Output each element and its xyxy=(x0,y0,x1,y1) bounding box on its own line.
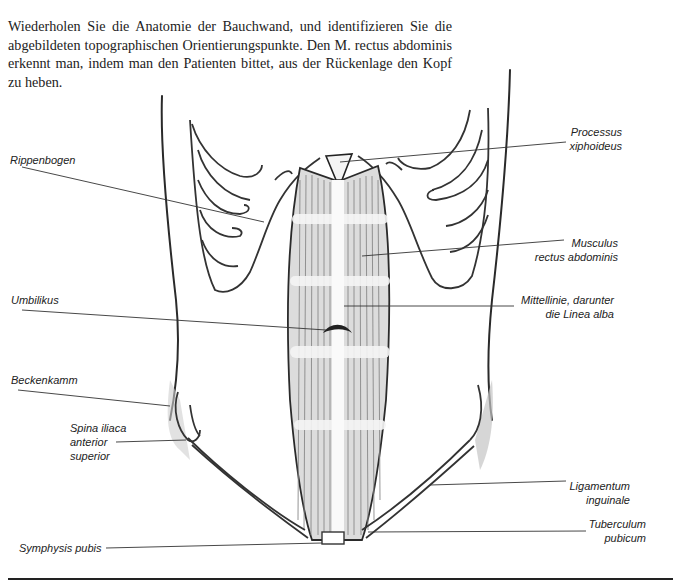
label-mittellinie-line2: die Linea alba xyxy=(510,307,614,321)
label-spina-line2: anterior xyxy=(70,435,107,449)
label-ligamentum-line1: Ligamentum xyxy=(560,479,630,493)
leader-ligamentum xyxy=(430,481,566,485)
torso-left-outline xyxy=(162,96,178,420)
label-symphysis-pubis: Symphysis pubis xyxy=(19,541,102,555)
label-musculus-line1: Musculus xyxy=(520,236,618,250)
label-spina-line3: superior xyxy=(70,449,110,463)
bottom-rule xyxy=(8,578,673,580)
label-processus-line2: xiphoideus xyxy=(560,139,622,153)
label-tuberculum-line1: Tuberculum xyxy=(570,517,646,531)
label-ligamentum-line2: inguinale xyxy=(560,493,630,507)
leader-rippenbogen xyxy=(22,167,264,222)
leader-symphysis xyxy=(106,543,322,548)
leader-beckenkamm xyxy=(18,390,170,406)
label-mittellinie-line1: Mittellinie, darunter xyxy=(510,293,614,307)
label-umbilikus: Umbilikus xyxy=(11,293,59,307)
label-processus-line1: Processus xyxy=(560,125,622,139)
pubic-symphysis xyxy=(322,532,344,544)
label-musculus-line2: rectus abdominis xyxy=(520,250,618,264)
leader-processus xyxy=(340,142,566,162)
label-tuberculum-line2: pubicum xyxy=(570,531,646,545)
xiphoid-process xyxy=(326,154,352,180)
label-beckenkamm: Beckenkamm xyxy=(11,373,78,387)
label-rippenbogen: Rippenbogen xyxy=(10,153,75,167)
label-spina-line1: Spina iliaca xyxy=(70,421,126,435)
leader-umbilikus xyxy=(22,310,326,330)
rectus-abdominis xyxy=(288,166,390,540)
leader-tuberculum xyxy=(368,531,586,532)
